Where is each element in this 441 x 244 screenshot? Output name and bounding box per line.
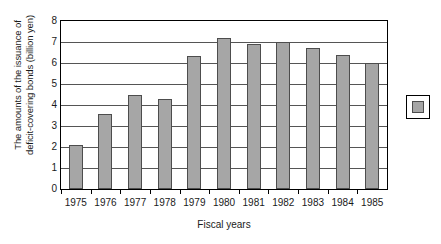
bar-slot: [268, 21, 298, 189]
bar: [187, 56, 201, 189]
bar: [336, 55, 350, 189]
bar: [276, 42, 290, 189]
x-axis-tick-label: 1985: [357, 197, 387, 211]
x-axis-tick: [91, 190, 121, 195]
bar-slot: [357, 21, 387, 189]
bar-slot: [61, 21, 91, 189]
y-axis-tick-label: 5: [35, 79, 57, 89]
x-axis-tick-label: 1981: [239, 197, 269, 211]
x-axis-tick-label: 1980: [209, 197, 239, 211]
x-axis-tick-label: 1982: [268, 197, 298, 211]
bar-series: [61, 21, 387, 189]
bar: [158, 99, 172, 189]
y-axis-tick-label: 4: [35, 100, 57, 110]
legend-swatch-series-1: [412, 101, 424, 113]
bar: [247, 44, 261, 189]
x-axis-tick-label: 1977: [120, 197, 150, 211]
bar: [306, 48, 320, 189]
y-axis-tick-label: 8: [35, 16, 57, 26]
x-axis-tick: [298, 190, 328, 195]
x-axis-tick-label: 1976: [91, 197, 121, 211]
x-axis-tick-label: 1984: [328, 197, 358, 211]
bar-slot: [180, 21, 210, 189]
y-axis-title-line-1: The amounts of the issuance of: [12, 20, 24, 150]
bar-chart: The amounts of the issuance of deficit-c…: [0, 0, 441, 244]
x-axis-tick: [180, 190, 210, 195]
x-axis-tick-label: 1978: [150, 197, 180, 211]
x-axis-title: Fiscal years: [61, 219, 387, 230]
bar: [98, 114, 112, 189]
x-axis-tick: [120, 190, 150, 195]
x-axis-tick-labels: 1975197619771978197919801981198219831984…: [61, 197, 387, 211]
y-axis-tick-labels: 876543210: [33, 20, 57, 190]
x-axis-tick: [357, 190, 387, 195]
x-axis-tick: [328, 190, 358, 195]
x-axis-tick: [61, 190, 91, 195]
bar-slot: [91, 21, 121, 189]
x-axis-ticks: [61, 190, 387, 195]
bar: [365, 63, 379, 189]
x-axis-tick-label: 1983: [298, 197, 328, 211]
y-axis-tick-label: 2: [35, 142, 57, 152]
bar-slot: [120, 21, 150, 189]
legend: [406, 95, 430, 119]
bar-slot: [150, 21, 180, 189]
bar-slot: [328, 21, 358, 189]
x-axis-tick: [239, 190, 269, 195]
y-axis-tick-label: 0: [35, 184, 57, 194]
bar: [217, 38, 231, 189]
y-axis-tick-label: 3: [35, 121, 57, 131]
x-axis-tick: [268, 190, 298, 195]
x-axis-tick: [150, 190, 180, 195]
x-axis-tick-label: 1979: [180, 197, 210, 211]
bar-slot: [239, 21, 269, 189]
bar-slot: [298, 21, 328, 189]
x-axis-tick-label: 1975: [61, 197, 91, 211]
y-axis-tick-label: 1: [35, 163, 57, 173]
bar-slot: [209, 21, 239, 189]
y-axis-tick-label: 6: [35, 58, 57, 68]
x-axis-tick: [209, 190, 239, 195]
y-axis-tick-label: 7: [35, 37, 57, 47]
bar: [69, 145, 83, 189]
bar: [128, 95, 142, 190]
